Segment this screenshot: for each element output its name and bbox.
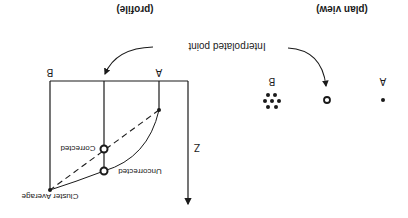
plan-label-a: A	[379, 76, 386, 87]
plan-label-b: B	[268, 76, 275, 87]
profile-point-a	[157, 108, 161, 112]
profile-caption: (profile)	[116, 4, 153, 15]
cluster-average-point	[48, 188, 52, 192]
plan-view-caption: (plan view)	[316, 4, 368, 15]
profile-label-b: B	[46, 67, 53, 78]
plan-point-a	[381, 98, 385, 102]
uncorrected-point	[101, 168, 108, 175]
z-axis-label: Z	[194, 142, 200, 153]
interpolated-arrow-to-plan	[288, 48, 326, 86]
uncorrected-label: Uncorrected	[118, 167, 162, 176]
interpolated-point-label: Interpolated point	[188, 41, 266, 52]
plan-cluster-b	[263, 93, 281, 109]
diagram-canvas: (profile) (plan view) Interpolated point…	[0, 0, 408, 218]
interpolated-arrow-to-profile	[105, 47, 153, 74]
corrected-label: Corrected	[60, 144, 95, 153]
cluster-average-label: Cluster Average	[21, 192, 78, 201]
plan-interpolated-point	[324, 97, 330, 103]
profile-label-a: A	[155, 67, 162, 78]
corrected-point	[101, 146, 108, 153]
